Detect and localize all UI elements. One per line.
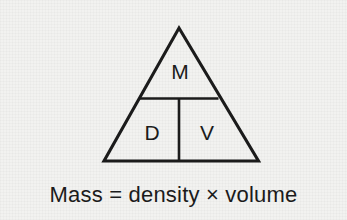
triangle-outline — [104, 28, 259, 161]
formula-triangle-figure: M D V Mass = density × volume — [0, 0, 347, 220]
triangle-cell-label-volume: V — [200, 121, 214, 144]
formula-caption: Mass = density × volume — [0, 182, 347, 208]
triangle-cell-label-mass: M — [171, 60, 189, 83]
triangle-cell-label-density: D — [144, 121, 159, 144]
